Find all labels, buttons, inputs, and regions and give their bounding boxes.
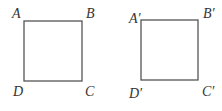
vertex-label-b-prime: B′ — [203, 6, 216, 21]
diagram-canvas: A B C D A′ B′ C′ D′ — [0, 0, 222, 111]
vertex-label-b: B — [86, 6, 95, 21]
square-prime-outline — [141, 20, 198, 80]
vertex-label-d-prime: D′ — [128, 86, 143, 101]
vertex-label-c: C — [85, 84, 95, 99]
square-abcd: A B C D — [11, 6, 95, 99]
square-abcd-outline — [24, 21, 82, 81]
vertex-label-d: D — [12, 84, 23, 99]
vertex-label-c-prime: C′ — [202, 84, 215, 99]
square-a-prime-b-prime-c-prime-d-prime: A′ B′ C′ D′ — [128, 6, 216, 101]
vertex-label-a: A — [11, 6, 21, 21]
vertex-label-a-prime: A′ — [128, 11, 142, 26]
